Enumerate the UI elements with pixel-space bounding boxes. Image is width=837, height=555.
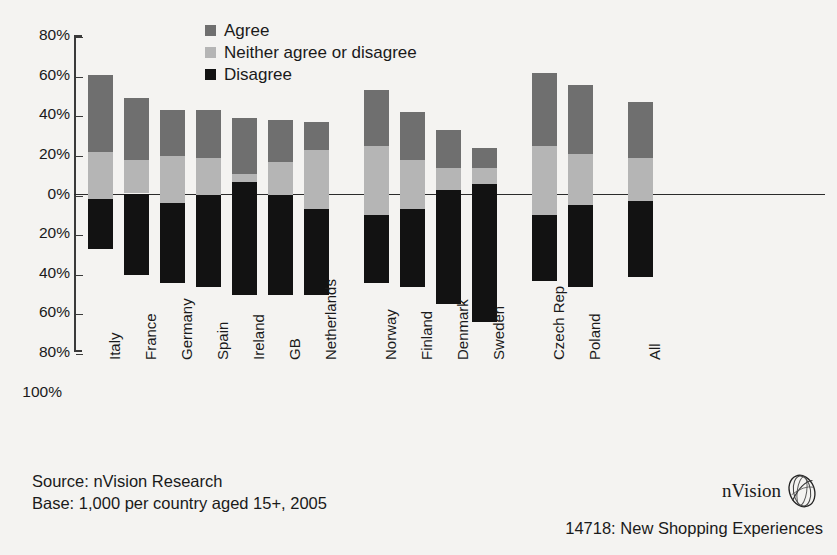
y-axis-tick-label: 80% [22,27,70,43]
y-axis-tick-label: 100% [14,384,62,400]
x-label-all: All [647,343,662,360]
bar-segment-neither [532,146,557,215]
y-axis-tick-label: 80% [22,344,70,360]
bar-finland [400,35,425,352]
x-label-finland: Finland [419,311,434,360]
bar-ireland [232,35,257,352]
source-line-2: Base: 1,000 per country aged 15+, 2005 [32,492,327,514]
bar-segment-disagree [400,209,425,286]
bar-segment-neither [160,156,185,204]
bar-segment-disagree [532,215,557,280]
bar-segment-disagree [196,195,221,286]
bar-poland [568,35,593,352]
bar-sweden [472,35,497,352]
bar-segment-agree [160,110,185,156]
bar-segment-neither [472,168,497,184]
x-label-norway: Norway [383,309,398,360]
bar-italy [88,35,113,352]
brand-name: nVision [722,480,781,502]
y-axis-tick-label: 20% [22,225,70,241]
y-axis-tick-label: 40% [22,265,70,281]
bar-segment-agree [400,112,425,160]
y-axis-tick [76,354,83,355]
bar-segment-disagree [124,194,149,275]
bar-norway [364,35,389,352]
x-label-italy: Italy [107,332,122,360]
nvision-swirl-icon [783,472,821,510]
x-label-gb: GB [287,338,302,360]
bar-segment-neither [124,160,149,194]
x-label-sweden: Sweden [491,306,506,360]
y-axis-tick-label: 40% [22,106,70,122]
chart-container: Agree Neither agree or disagree Disagree… [0,0,837,555]
bar-segment-agree [124,98,149,159]
y-axis-tick-label: 60% [22,304,70,320]
bar-segment-neither [436,168,461,190]
bar-segment-disagree [436,190,461,305]
bar-segment-disagree [628,201,653,276]
bar-segment-agree [628,102,653,157]
bar-segment-neither [364,146,389,215]
x-label-poland: Poland [587,313,602,360]
bar-segment-neither [628,158,653,202]
bar-segment-disagree [568,205,593,286]
bar-segment-disagree [232,182,257,295]
y-axis-tick-label: 20% [22,146,70,162]
bar-segment-neither [88,152,113,200]
bar-segment-agree [304,122,329,150]
x-label-ireland: Ireland [251,314,266,360]
bar-gb [268,35,293,352]
bar-segment-neither [196,158,221,196]
x-label-france: France [143,313,158,360]
x-label-spain: Spain [215,322,230,360]
bar-segment-neither [304,150,329,209]
bar-segment-agree [268,120,293,162]
bar-segment-agree [436,130,461,168]
bar-segment-agree [196,110,221,158]
bar-segment-agree [364,90,389,145]
slide-reference: 14718: New Shopping Experiences [565,519,823,538]
bar-segment-disagree [364,215,389,282]
bar-segment-disagree [472,184,497,323]
source-block: Source: nVision Research Base: 1,000 per… [32,470,327,514]
bar-segment-disagree [88,199,113,249]
bar-segment-disagree [268,195,293,294]
source-line-1: Source: nVision Research [32,470,327,492]
bar-segment-agree [568,85,593,154]
bar-segment-disagree [160,203,185,282]
x-label-germany: Germany [179,298,194,360]
bar-segment-neither [568,154,593,206]
x-label-netherlands: Netherlands [323,279,338,360]
bar-segment-agree [472,148,497,168]
bar-segment-agree [232,118,257,173]
bar-segment-agree [532,73,557,146]
bar-segment-neither [268,162,293,196]
x-label-denmark: Denmark [455,299,470,360]
bar-spain [196,35,221,352]
bar-segment-agree [88,75,113,152]
bar-all [628,35,653,352]
bar-france [124,35,149,352]
y-axis-tick-label: 60% [22,67,70,83]
y-axis-tick-label: 0% [22,186,70,202]
brand-logo: nVision [722,472,821,510]
bar-segment-neither [232,174,257,182]
x-label-czech-rep: Czech Rep [551,286,566,360]
bar-segment-neither [400,160,425,210]
